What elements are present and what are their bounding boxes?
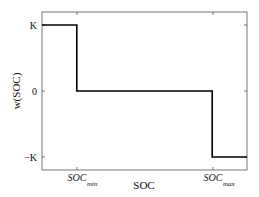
chart: K 0 −K SOC min SOC max SOC w(SOC) (0, 0, 259, 197)
x-tick-label-soc-max: SOC max (204, 172, 236, 188)
svg-text:min: min (87, 180, 98, 188)
series-line (42, 25, 247, 157)
x-tick-label-soc-min: SOC min (68, 172, 98, 188)
svg-text:max: max (223, 180, 236, 188)
y-tick-label-k: K (30, 20, 38, 31)
y-tick-label-zero: 0 (32, 86, 37, 97)
svg-text:SOC: SOC (204, 172, 223, 183)
x-axis-label: SOC (133, 179, 154, 191)
y-tick-label-neg-k: −K (24, 152, 38, 163)
svg-text:SOC: SOC (68, 172, 87, 183)
y-axis-label: w(SOC) (10, 72, 23, 109)
